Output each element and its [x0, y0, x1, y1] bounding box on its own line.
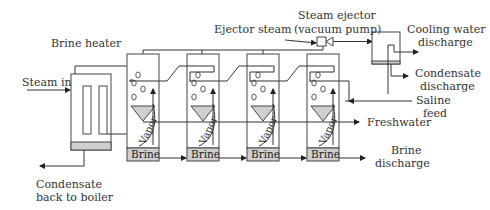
med-process-diagram: Brine Brine Brine Brine Vapor Vapor Vapo…: [0, 0, 490, 210]
label-brine-discharge-1: Brine: [391, 144, 421, 157]
label-cooling-water-1: Cooling water: [407, 23, 486, 36]
label-freshwater: Freshwater: [367, 116, 432, 129]
label-ejector-steam: Ejector steam: [214, 23, 292, 36]
label-steam-ejector-2: (vacuum pump): [294, 23, 381, 36]
label-saline-1: Saline: [416, 94, 451, 107]
condenser: [349, 32, 418, 101]
brine-label-3: Brine: [251, 148, 280, 160]
brine-label-4: Brine: [311, 148, 340, 160]
steam-ejector: [285, 37, 372, 46]
label-brine-heater: Brine heater: [51, 37, 122, 50]
label-condensate-discharge-1: Condensate: [415, 67, 481, 80]
label-steam-in: Steam in: [22, 76, 72, 89]
label-steam-ejector-1: Steam ejector: [298, 9, 377, 22]
brine-label-1: Brine: [131, 148, 160, 160]
label-condensate-discharge-2: discharge: [420, 80, 475, 93]
label-condensate-back-2: back to boiler: [36, 191, 114, 204]
label-condensate-back-1: Condensate: [36, 178, 102, 191]
vacuum-header-line: [143, 43, 323, 54]
label-cooling-water-2: discharge: [418, 36, 473, 49]
label-brine-discharge-2: discharge: [375, 157, 430, 170]
brine-label-2: Brine: [191, 148, 220, 160]
